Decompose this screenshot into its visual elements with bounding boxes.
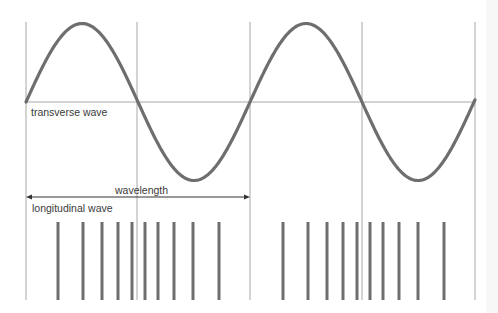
grid-lines — [26, 22, 475, 300]
arrowhead-left-icon — [26, 195, 32, 200]
longitudinal-wave-label: longitudinal wave — [32, 202, 113, 214]
longitudinal-wave-bars — [58, 222, 444, 300]
wave-diagram-canvas — [0, 0, 498, 313]
page-edge — [486, 0, 498, 313]
wave-diagram: transverse wave wavelength longitudinal … — [0, 0, 498, 313]
arrowhead-right-icon — [244, 195, 250, 200]
wavelength-label: wavelength — [115, 184, 168, 196]
transverse-wave-label: transverse wave — [31, 106, 107, 118]
